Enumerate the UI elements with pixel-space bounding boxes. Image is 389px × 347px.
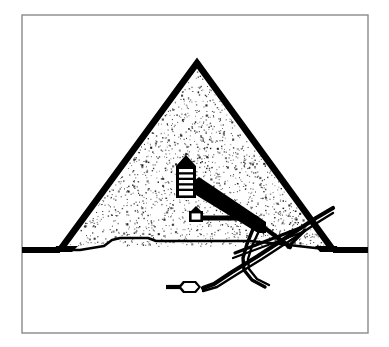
queens-chamber-void bbox=[192, 213, 201, 219]
relieving-chamber-3 bbox=[179, 180, 193, 183]
pyramid-cross-section-figure bbox=[0, 0, 389, 347]
relieving-chamber-1 bbox=[179, 169, 193, 172]
kings-chamber-void bbox=[179, 191, 193, 195]
relieving-chamber-2 bbox=[179, 175, 193, 178]
pyramid-diagram-canvas bbox=[0, 0, 389, 347]
relieving-chamber-4 bbox=[179, 186, 193, 189]
